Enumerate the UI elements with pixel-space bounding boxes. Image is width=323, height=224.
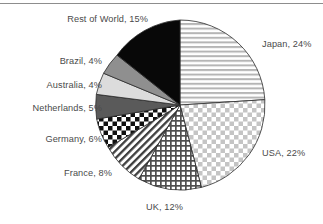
pie-label-japan: Japan, 24%: [262, 39, 312, 50]
pie-label-netherlands: Netherlands, 5%: [2, 103, 102, 114]
pie-chart-figure: Japan, 24% USA, 22% UK, 12% France, 8% G…: [0, 0, 323, 224]
pie-slice-japan[interactable]: [180, 20, 265, 105]
pie-label-australia: Australia, 4%: [2, 80, 102, 91]
pie-label-rest-of-world: Rest of World, 15%: [28, 14, 148, 25]
pie-label-germany: Germany, 6%: [2, 134, 102, 145]
pie-label-brazil: Brazil, 4%: [2, 56, 102, 67]
pie-label-france: France, 8%: [2, 168, 112, 179]
pie-slices: [96, 20, 265, 190]
pie-label-uk: UK, 12%: [146, 202, 183, 213]
pie-label-usa: USA, 22%: [262, 148, 305, 159]
